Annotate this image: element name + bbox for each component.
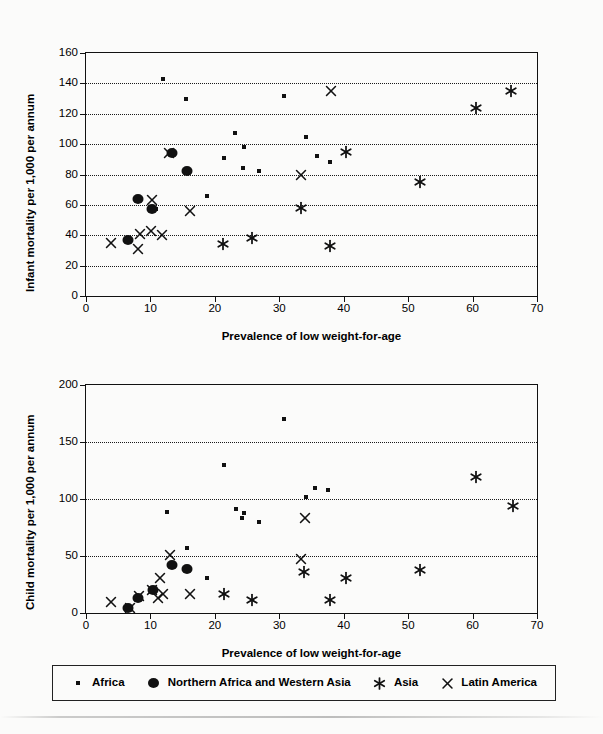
- data-point: [470, 471, 483, 484]
- y-axis-tick: [80, 114, 86, 115]
- data-point: [165, 510, 169, 514]
- legend-entry[interactable]: Northern Africa and Western Asia: [147, 676, 351, 690]
- data-point: [315, 154, 319, 158]
- x-axis-tick-label: 50: [402, 303, 415, 315]
- gridline: [86, 144, 537, 145]
- x-axis-tick-label: 10: [144, 620, 157, 632]
- legend: AfricaNorthern Africa and Western AsiaAs…: [52, 665, 556, 701]
- data-point: [132, 194, 143, 204]
- data-point: [146, 204, 157, 214]
- figure-page: 020406080100120140160010203040506070 Inf…: [0, 0, 603, 734]
- legend-entry[interactable]: Latin America: [440, 676, 537, 690]
- y-axis-tick: [80, 175, 86, 176]
- data-point: [326, 488, 330, 492]
- y-axis-tick-label: 20: [65, 260, 78, 272]
- x-axis-tick-label: 30: [273, 620, 286, 632]
- x-axis-tick-label: 40: [337, 303, 350, 315]
- legend-marker: [440, 676, 454, 690]
- legend-entry[interactable]: Asia: [373, 676, 418, 690]
- data-point: [297, 565, 310, 578]
- gridline: [86, 205, 537, 206]
- data-point: [123, 602, 136, 615]
- data-point: [282, 417, 286, 421]
- data-point: [105, 595, 118, 608]
- gridline: [86, 499, 537, 500]
- data-point: [257, 520, 261, 524]
- data-point: [156, 587, 169, 600]
- data-point: [152, 592, 165, 605]
- gridline: [86, 442, 537, 443]
- x-axis-tick-label: 70: [531, 620, 544, 632]
- y-axis-tick-label: 140: [59, 78, 78, 90]
- data-point: [185, 546, 189, 550]
- y-axis-tick: [80, 556, 86, 557]
- x-axis-tick-label: 50: [402, 620, 415, 632]
- data-point: [295, 553, 308, 566]
- x-axis-tick-label: 60: [466, 620, 479, 632]
- data-point: [240, 516, 244, 520]
- y-axis-tick-label: 200: [59, 379, 78, 391]
- data-point: [233, 131, 237, 135]
- data-point: [217, 238, 230, 251]
- y-axis-tick-label: 80: [65, 169, 78, 181]
- legend-label: Latin America: [461, 677, 537, 689]
- data-point: [257, 169, 261, 173]
- data-point: [282, 94, 286, 98]
- data-point: [507, 499, 520, 512]
- legend-label: Africa: [92, 677, 125, 689]
- data-point: [222, 156, 226, 160]
- y-axis-tick-label: 160: [59, 47, 78, 59]
- y-axis-tick-label: 0: [72, 290, 78, 302]
- gridline: [86, 114, 537, 115]
- data-point: [134, 227, 147, 240]
- data-point: [242, 511, 246, 515]
- data-point: [163, 147, 176, 160]
- y-axis-tick-label: 0: [72, 607, 78, 619]
- data-point: [146, 584, 159, 597]
- x-axis-tick-label: 20: [208, 303, 221, 315]
- legend-entry[interactable]: Africa: [71, 676, 125, 690]
- legend-marker: [147, 676, 161, 690]
- y-axis-tick-label: 50: [65, 550, 78, 562]
- data-point: [205, 576, 209, 580]
- plot-area-top: 020406080100120140160010203040506070: [85, 52, 538, 297]
- legend-marker: [71, 676, 85, 690]
- data-point: [161, 77, 165, 81]
- data-point: [131, 242, 144, 255]
- x-axis-tick-label: 60: [466, 303, 479, 315]
- data-point: [167, 560, 178, 570]
- y-axis-title-top: Infant mortality per 1,000 per annum: [24, 94, 36, 292]
- data-point: [154, 571, 167, 584]
- y-axis-title-bottom: Child mortality per 1,000 per annum: [24, 414, 36, 610]
- y-axis-tick-label: 150: [59, 436, 78, 448]
- data-point: [414, 176, 427, 189]
- data-point: [414, 563, 427, 576]
- data-point: [246, 232, 259, 245]
- gridline: [86, 83, 537, 84]
- x-axis-title-top: Prevalence of low weight-for-age: [85, 330, 538, 342]
- data-point: [154, 207, 158, 211]
- data-point: [205, 194, 209, 198]
- infant-mortality-scatter-chart: 020406080100120140160010203040506070 Inf…: [0, 0, 603, 352]
- x-axis-tick-label: 0: [83, 620, 89, 632]
- y-axis-tick: [80, 83, 86, 84]
- y-axis-tick: [80, 205, 86, 206]
- y-axis-tick-label: 60: [65, 199, 78, 211]
- gridline: [86, 235, 537, 236]
- data-point: [184, 587, 197, 600]
- data-point: [148, 585, 159, 595]
- x-axis-tick-label: 20: [208, 620, 221, 632]
- x-axis-tick-label: 40: [337, 620, 350, 632]
- small-square-icon: [76, 681, 80, 685]
- data-point: [339, 145, 352, 158]
- x-axis-tick-label: 30: [273, 303, 286, 315]
- data-point: [470, 101, 483, 114]
- y-axis-tick: [80, 144, 86, 145]
- data-point: [299, 512, 312, 525]
- y-axis-tick: [80, 442, 86, 443]
- gridline: [86, 266, 537, 267]
- data-point: [222, 463, 226, 467]
- gridline: [86, 556, 537, 557]
- y-axis-tick: [80, 385, 86, 386]
- data-point: [166, 148, 177, 158]
